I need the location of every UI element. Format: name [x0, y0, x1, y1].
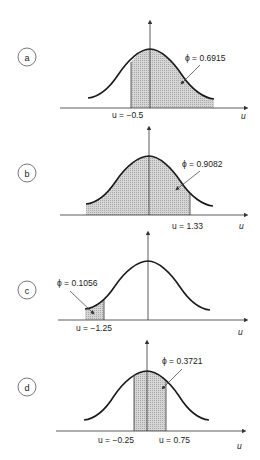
panel-label-a: a	[18, 48, 36, 66]
u-value-label: u = −0.5	[112, 110, 143, 120]
shaded-area-c	[85, 300, 104, 320]
phi-value-label: ϕ = 0.9082	[182, 159, 223, 169]
pointer-arrow	[182, 65, 200, 83]
panel-b: b ϕ = 0.9082 u = 1.33 u	[18, 128, 246, 231]
pointer-arrow	[163, 369, 182, 388]
panel-label-b: b	[18, 164, 36, 182]
phi-value-label: ϕ = 0.3721	[162, 356, 203, 366]
normal-distribution-figure: a ϕ = 0.6915 u = −0.5 u b ϕ = 0.9082 u =…	[0, 0, 260, 460]
u-axis-label: u	[237, 441, 242, 451]
u-axis-label: u	[239, 221, 244, 231]
panel-label-d: d	[18, 378, 36, 396]
phi-value-label: ϕ = 0.1056	[57, 278, 98, 288]
svg-text:a: a	[24, 53, 29, 63]
u-value-label-left: u = −0.25	[98, 435, 134, 445]
pointer-arrow	[70, 291, 93, 313]
phi-value-label: ϕ = 0.6915	[185, 53, 226, 63]
u-value-label: u = 1.33	[172, 221, 203, 231]
u-axis-label: u	[238, 327, 243, 337]
svg-text:c: c	[25, 286, 30, 296]
panel-c: c ϕ = 0.1056 u = −1.25 u	[18, 233, 246, 337]
u-value-label: u = −1.25	[76, 323, 112, 333]
u-value-label-right: u = 0.75	[159, 435, 190, 445]
svg-text:b: b	[24, 169, 29, 179]
u-axis-label: u	[241, 111, 246, 121]
svg-text:d: d	[24, 383, 29, 393]
panel-label-c: c	[18, 281, 36, 299]
panel-a: a ϕ = 0.6915 u = −0.5 u	[18, 22, 246, 121]
panel-d: d ϕ = 0.3721 u = −0.25 u = 0.75 u	[18, 342, 244, 451]
shaded-area-b	[86, 156, 190, 215]
shaded-area-d	[134, 371, 166, 431]
